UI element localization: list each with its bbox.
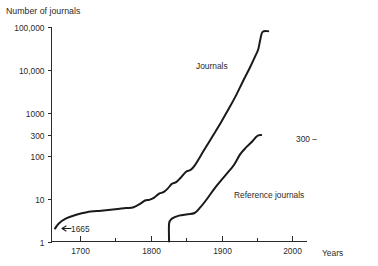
series-label-reference-journals: Reference journals <box>234 190 304 200</box>
y-tick-label: 10 <box>35 195 45 205</box>
origin-pointer-icon <box>62 226 71 231</box>
chart-container: 100,00010,0001000300100101 1700180019002… <box>0 0 378 266</box>
series-line-reference-journals <box>169 135 261 242</box>
x-axis-tick-labels: 1700180019002000 <box>71 246 302 256</box>
annotation-reference-endpoint: 300 – <box>296 134 317 144</box>
y-axis-tick-labels: 100,00010,0001000300100101 <box>14 23 45 248</box>
y-tick-label: 1 <box>40 238 45 248</box>
y-tick-label: 100 <box>31 152 45 162</box>
x-tick-label: 2000 <box>283 246 302 256</box>
x-tick-label: 1900 <box>213 246 232 256</box>
x-axis-title: Years <box>322 248 343 258</box>
x-tick-label: 1800 <box>142 246 161 256</box>
chart-title: Number of journals <box>6 6 81 16</box>
y-tick-label: 300 <box>31 131 45 141</box>
y-axis-ticks <box>48 28 52 243</box>
y-tick-label: 1000 <box>26 109 45 119</box>
journals-growth-chart: 100,00010,0001000300100101 1700180019002… <box>0 0 378 266</box>
y-tick-label: 100,000 <box>14 23 45 33</box>
y-tick-label: 10,000 <box>19 66 45 76</box>
x-axis-ticks <box>81 236 293 242</box>
x-tick-label: 1700 <box>71 246 90 256</box>
annotation-origin-year: 1665 <box>71 224 90 234</box>
series-label-journals: Journals <box>196 61 228 71</box>
